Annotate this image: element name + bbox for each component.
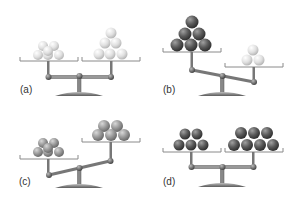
base xyxy=(55,92,103,96)
base xyxy=(198,92,246,96)
stand xyxy=(78,77,82,93)
base xyxy=(55,184,103,188)
scale-panel-a xyxy=(20,28,140,97)
right-ball-pile xyxy=(242,45,265,66)
joint-right xyxy=(108,74,114,80)
joint-right xyxy=(108,158,114,164)
joint-right xyxy=(251,79,257,85)
panel-label-c: (c) xyxy=(19,176,31,187)
left-ball-pile xyxy=(171,16,212,52)
pivot xyxy=(77,165,83,171)
panel-label-b: (b) xyxy=(163,84,175,95)
panel-label-d: (d) xyxy=(163,176,175,187)
pivot xyxy=(220,73,226,79)
left-ball-pile xyxy=(174,129,209,151)
base xyxy=(198,183,246,187)
pivot xyxy=(77,73,83,79)
joint-left xyxy=(189,67,195,73)
joint-left xyxy=(189,164,195,170)
left-ball-pile xyxy=(33,138,64,157)
balance-scales-diagram xyxy=(0,0,306,198)
right-pan xyxy=(225,63,283,67)
scale-panel-c xyxy=(20,120,140,188)
left-post xyxy=(191,52,194,69)
joint-left xyxy=(46,172,52,178)
joint-left xyxy=(46,74,52,80)
joint-right xyxy=(251,164,257,170)
right-ball-pile xyxy=(228,127,279,151)
scale-panel-d xyxy=(163,127,283,187)
stand xyxy=(221,77,225,93)
right-ball-pile xyxy=(94,28,128,60)
panel-label-a: (a) xyxy=(20,84,32,95)
pivot xyxy=(220,164,226,170)
left-ball-pile xyxy=(33,41,64,60)
right-ball-pile xyxy=(92,120,130,141)
scale-panel-b xyxy=(163,16,283,97)
